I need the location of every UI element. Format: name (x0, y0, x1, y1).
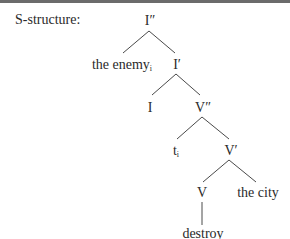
node-spec-ip: the enemyi (92, 57, 152, 77)
index-subscript: i (150, 64, 152, 73)
node-v-head: V (197, 185, 207, 201)
node-i-bar: I′ (173, 57, 181, 73)
edge-vdbl-trace (177, 117, 202, 139)
index-subscript: i (177, 150, 179, 159)
node-spec-ip-text: the enemy (92, 57, 150, 72)
tree-edges (0, 0, 290, 239)
node-root: I″ (145, 13, 156, 29)
edge-root-ibar (149, 31, 175, 53)
edge-ibar-i (152, 74, 176, 95)
node-verb: destroy (182, 226, 223, 239)
edge-root-spec (123, 31, 149, 53)
node-v-double-bar: V″ (195, 100, 211, 116)
node-v-bar: V′ (224, 143, 237, 159)
edge-vbar-object (229, 160, 256, 182)
edge-vbar-v (203, 160, 229, 182)
edge-ibar-vdbl (176, 74, 200, 95)
edge-vdbl-vbar (202, 117, 229, 139)
node-object: the city (237, 185, 279, 201)
node-trace: ti (173, 143, 179, 163)
node-i-head: I (148, 100, 153, 116)
